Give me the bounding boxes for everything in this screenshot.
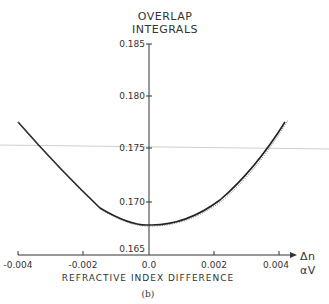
reference-line [0,145,329,149]
chart-title-line1: OVERLAP [138,10,193,23]
y-tick-label: 0.170 [119,197,145,207]
x-tick-label: 0.002 [201,260,227,270]
x-tick-label: 0.004 [263,260,289,270]
x-axis-symbol-top: Δn [300,250,316,263]
y-tick-label: 0.175 [119,143,145,153]
x-axis-arrow-icon [290,252,297,258]
y-tick-label: 0.165 [119,244,145,254]
x-tick-label: -0.004 [3,260,32,270]
chart-title-line2: INTEGRALS [132,23,198,36]
solid-curve [18,122,285,225]
x-tick-label: 0.0 [142,260,157,270]
y-tick-label: 0.180 [119,91,145,101]
x-axis-symbol-bottom: αV [300,264,316,277]
x-tick-label: -0.002 [68,260,97,270]
x-axis-label: REFRACTIVE INDEX DIFFERENCE [62,273,234,283]
y-tick-label: 0.185 [119,39,145,49]
figure-caption: (b) [142,289,155,299]
chart: OVERLAP INTEGRALS 0.185 0.180 0.175 0.17… [0,0,329,304]
